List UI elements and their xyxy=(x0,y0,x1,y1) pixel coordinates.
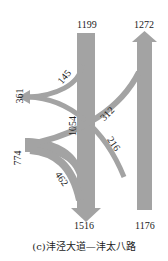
label-west-out: 361 xyxy=(15,89,25,104)
label-west-in: 774 xyxy=(13,151,23,166)
flow-145 xyxy=(28,65,82,97)
label-south-in: 1176 xyxy=(135,221,155,231)
label-through-1054: 1054 xyxy=(68,116,78,136)
diagram-caption: (c)沣泾大道—沣太八路 xyxy=(0,238,168,253)
label-north-out: 1272 xyxy=(134,20,154,30)
label-south-out: 1516 xyxy=(74,221,94,231)
label-north-in: 1199 xyxy=(77,20,97,30)
northbound-flow-bar xyxy=(137,42,152,210)
north-arrow-head xyxy=(132,31,157,42)
